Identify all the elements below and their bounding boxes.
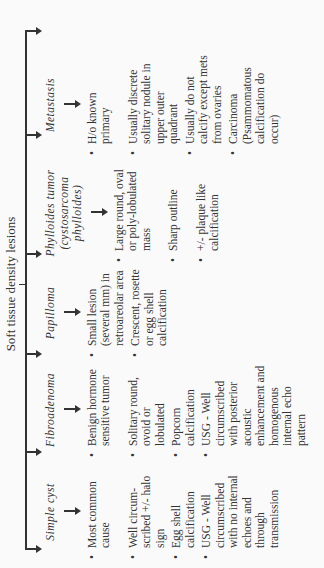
diagram-overlay — [0, 0, 324, 568]
